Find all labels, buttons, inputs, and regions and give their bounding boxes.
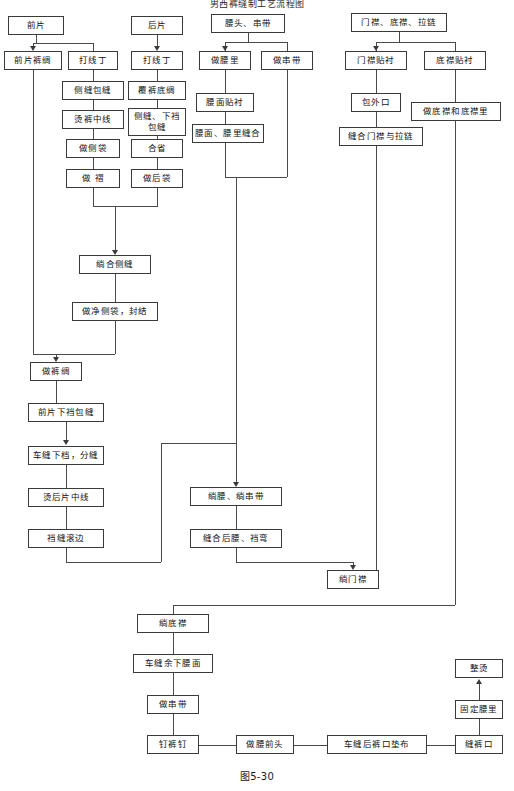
node-mark-front: 打线丁 [68, 51, 118, 70]
node-underfly-interlining: 底襟贴衬 [424, 51, 486, 70]
edge-fly-split [376, 42, 455, 43]
edge-lining-to-trouser [33, 354, 56, 355]
edge-c2-b [157, 100, 158, 108]
edge-crotchbind-right [66, 562, 161, 563]
edge-m2 [225, 112, 226, 124]
node-bag-outer-opening: 包外口 [351, 93, 401, 112]
edge-b1 [173, 633, 174, 654]
edge-merge-pleat-pocket [93, 206, 158, 207]
edge-m3 [225, 143, 226, 177]
edge-lining-long [33, 70, 34, 354]
edge-bot3 [427, 745, 455, 746]
node-finish-side-pocket: 做净侧袋，封结 [72, 302, 158, 321]
edge-waist-merged-down [236, 177, 237, 483]
node-make-waist-front: 做腰前头 [236, 735, 294, 754]
node-nail-button: 钉裤钉 [147, 735, 199, 754]
edge-merge-down [115, 206, 116, 251]
node-fly-underfly-zipper: 门襟、底襟、拉链 [351, 13, 447, 32]
edge-bot1 [199, 745, 236, 746]
edge-backwaist-right [236, 562, 353, 563]
node-sew-fly-zipper: 缝合门襟与拉链 [339, 127, 423, 146]
edge-r4 [455, 70, 456, 102]
flowchart-canvas: 男西裤缝制工艺流程图 前片 后片 腰头、串带 门襟、底襟、拉链 前片裤绸 打线丁… [0, 0, 514, 791]
node-make-underfly-and-lining: 做底襟和底襟里 [411, 102, 501, 121]
node-sew-back-waist-crotch: 缝合后腰、裆弯 [190, 529, 282, 548]
edge-crotchbind-up [161, 443, 162, 562]
edge-fix-up [479, 683, 480, 700]
node-make-waist-lining: 做腰里 [199, 51, 251, 70]
node-make-side-pocket: 做侧袋 [66, 139, 120, 158]
node-make-loop: 做串带 [261, 51, 313, 70]
edge-finish-down [115, 321, 116, 354]
edge-l3 [66, 465, 67, 488]
node-join-side-seam: 绱合侧缝 [79, 255, 151, 274]
edge-r2 [376, 112, 377, 127]
node-front-panel: 前片 [8, 16, 64, 35]
edge-loop-down [287, 70, 288, 177]
node-side-seam-overlock: 侧缝包缝 [62, 81, 124, 100]
edge-l5 [66, 548, 67, 562]
edge-waist-down [248, 33, 249, 42]
edge-fly-down [399, 32, 400, 42]
edge-backwaist-down [236, 548, 237, 562]
node-attach-underfly: 绱底襟 [137, 614, 209, 633]
node-waist-face-interlining: 腰面贴衬 [196, 93, 254, 112]
edge-c2-d [157, 158, 158, 169]
edge-front-to-mark [93, 43, 94, 51]
node-side-crotch-overlock: 侧缝、下裆包缝 [128, 108, 186, 136]
edge-c1-b [93, 129, 94, 139]
edge-c1-a [93, 100, 94, 110]
node-mark-back: 打线丁 [131, 51, 183, 70]
node-front-crotch-overlock: 前片下裆包缝 [28, 403, 104, 422]
edge-r5-long [455, 121, 456, 605]
edge-waist-to-loop [287, 42, 288, 51]
figure-title: 男西裤缝制工艺流程图 [0, 0, 514, 10]
arrow-to-final-press [476, 679, 482, 684]
node-attach-waist-loop: 绱腰、绱串带 [190, 487, 282, 506]
node-final-press: 整烫 [455, 659, 503, 678]
node-front-panel-lining: 前片裤绸 [4, 51, 62, 70]
figure-caption: 图5-30 [0, 768, 514, 783]
edge-finish-left [56, 354, 115, 355]
edge-fly-to-underfly [455, 42, 456, 51]
edge-r1 [376, 70, 377, 93]
edge-hem-up [479, 719, 480, 735]
node-sew-crotch-open: 车缝下档，分缝 [28, 446, 104, 465]
edge-crotchbind-to-mid [161, 443, 236, 444]
edge-waist-split [225, 42, 287, 43]
edge-r3-long [376, 146, 377, 570]
node-press-center-line: 烫裤中线 [62, 110, 124, 129]
edge-m-merge [225, 177, 287, 178]
edge-l2 [66, 422, 67, 441]
edge-b2 [173, 673, 174, 695]
edge-l1 [56, 381, 57, 403]
edge-back-down [157, 35, 158, 46]
edge-c1-c [93, 158, 94, 169]
edge-r5-to-underfly [173, 605, 455, 606]
node-make-loop-2: 做串带 [147, 695, 199, 714]
node-waist-face-lining-seam: 腰面、腰里缝合 [192, 124, 264, 143]
edge-l4 [66, 507, 67, 529]
node-press-back-center: 烫后片中线 [28, 488, 104, 507]
node-fly-interlining: 门襟贴衬 [345, 51, 407, 70]
edge-front-split [33, 43, 93, 44]
edge-b3 [173, 714, 174, 735]
node-sew-remaining-waist: 车缝余下腰面 [133, 654, 213, 673]
edge-c1-d [93, 188, 94, 206]
edge-m1 [225, 70, 226, 93]
edge-front-down [36, 35, 37, 43]
node-sew-hem: 缝裤口 [455, 735, 503, 754]
node-waist-loop: 腰头、串带 [211, 14, 285, 33]
node-crotch-seam-binding: 裆缝滚边 [28, 529, 104, 548]
node-join-dart: 合省 [131, 139, 183, 158]
arrow-to-sew-crotch [63, 440, 69, 445]
edge-bot2 [294, 745, 327, 746]
node-make-trouser-lining: 做裤绸 [30, 362, 82, 381]
edge-c2-e [157, 188, 158, 206]
node-attach-fly: 绱门襟 [327, 570, 379, 589]
edge-joinseam-to-finish [115, 274, 116, 302]
edge-attachwaist-down [236, 506, 237, 529]
node-fix-waist-lining: 固定腰里 [455, 700, 503, 719]
node-back-panel: 后片 [131, 16, 183, 35]
edge-mark-to-sideoverlock [93, 70, 94, 81]
